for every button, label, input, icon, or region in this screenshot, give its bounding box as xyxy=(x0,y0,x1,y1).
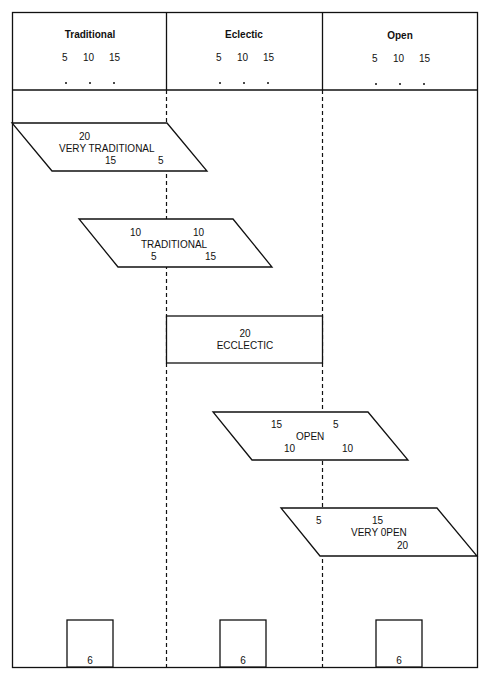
traditional-bottom-left-score: 5 xyxy=(151,251,157,262)
scale-dot xyxy=(113,82,115,84)
very-open-top-left-score: 5 xyxy=(316,515,322,526)
scale-dot xyxy=(375,83,377,85)
scale-15: 15 xyxy=(419,53,430,64)
scale-dot xyxy=(243,82,245,84)
traditional-top-right-score: 10 xyxy=(193,227,204,238)
very-traditional-bottom-right-score: 5 xyxy=(158,155,164,166)
scale-dot xyxy=(89,82,91,84)
scale-5: 5 xyxy=(372,53,378,64)
scale-dot xyxy=(399,83,401,85)
open-bottom-box-value: 6 xyxy=(376,655,422,666)
scale-dot xyxy=(65,82,67,84)
traditional-bottom-right-score: 15 xyxy=(205,251,216,262)
very-open-bottom-right-score: 20 xyxy=(397,540,408,551)
scale-10: 10 xyxy=(83,52,94,63)
column-title-open: Open xyxy=(323,30,477,41)
very-traditional-bottom-left-score: 15 xyxy=(105,155,116,166)
open-top-left-score: 15 xyxy=(271,419,282,430)
scale-15: 15 xyxy=(263,52,274,63)
scale-10: 10 xyxy=(237,52,248,63)
open-bottom-left-score: 10 xyxy=(284,443,295,454)
column-title-eclectic: Eclectic xyxy=(167,29,321,40)
ecclectic-label: ECCLECTIC xyxy=(167,340,323,351)
ecclectic-top-score: 20 xyxy=(167,328,323,339)
open-label: OPEN xyxy=(296,431,324,442)
scale-15: 15 xyxy=(109,52,120,63)
scale-dot xyxy=(219,82,221,84)
very-open-label: VERY 0PEN xyxy=(351,527,407,538)
traditional-label: TRADITIONAL xyxy=(141,239,207,250)
open-top-right-score: 5 xyxy=(333,419,339,430)
traditional-top-left-score: 10 xyxy=(130,227,141,238)
very-traditional-top-score: 20 xyxy=(79,131,90,142)
column-title-traditional: Traditional xyxy=(13,29,167,40)
scale-dot xyxy=(267,82,269,84)
very-traditional-label: VERY TRADITIONAL xyxy=(59,143,155,154)
traditional-bottom-box-value: 6 xyxy=(67,655,113,666)
scale-dot xyxy=(423,83,425,85)
scale-5: 5 xyxy=(216,52,222,63)
very-open-top-right-score: 15 xyxy=(372,515,383,526)
open-bottom-right-score: 10 xyxy=(342,443,353,454)
scale-10: 10 xyxy=(393,53,404,64)
eclectic-bottom-box-value: 6 xyxy=(220,655,266,666)
scale-5: 5 xyxy=(62,52,68,63)
